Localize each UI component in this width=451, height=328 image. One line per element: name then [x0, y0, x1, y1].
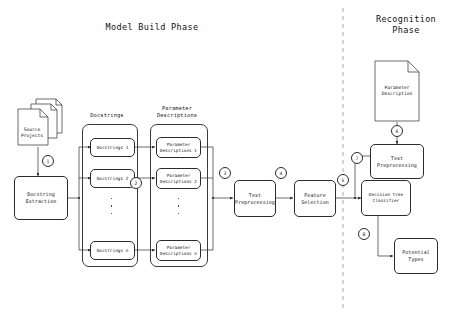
step-badge-5: 5	[337, 174, 349, 186]
feature-selection-node[interactable]: Feature Selection	[294, 180, 336, 217]
text-preprocessing-node[interactable]: Text Preprocessing	[234, 180, 276, 217]
recognition-phase-title: Recognition Phase	[362, 14, 450, 36]
step-badge-7: 7	[351, 152, 363, 164]
parameter-description-doc-label: Parameter Description	[374, 80, 420, 102]
docstrings-group-label: Docstrings	[76, 112, 138, 119]
docstrings-item-2[interactable]: Docstrings 2	[90, 169, 135, 188]
docstrings-item-n[interactable]: Docstrings n	[90, 241, 135, 260]
step-badge-6: 6	[391, 125, 403, 137]
step-badge-3: 3	[219, 167, 231, 179]
step-badge-4: 4	[275, 167, 287, 179]
junction-dot-dtc	[354, 197, 356, 199]
parameter-descriptions-group-label: Parameter Descriptions	[146, 105, 208, 118]
docstring-extraction-node[interactable]: Docstring Extraction	[14, 176, 68, 220]
parameter-descriptions-ellipsis	[178, 198, 179, 214]
docstrings-ellipsis	[111, 198, 112, 214]
step-badge-1: 1	[42, 155, 54, 167]
source-projects-label: Source Projects	[16, 122, 48, 144]
flowchart-diagram: Model Build Phase Recognition Phase Sour…	[0, 0, 451, 328]
potential-types-node[interactable]: Potential Types	[394, 238, 438, 274]
step-badge-2: 2	[130, 177, 142, 189]
step-badge-8: 8	[358, 228, 370, 240]
parameter-description-item-2[interactable]: Parameter Descriptions 2	[156, 168, 201, 189]
parameter-description-item-n[interactable]: Parameter Descriptions n	[156, 240, 201, 261]
recognition-text-preprocessing-node[interactable]: Text Preprocessing	[370, 144, 424, 179]
docstrings-item-1[interactable]: Docstrings 1	[90, 138, 135, 157]
decision-tree-classifier-node[interactable]: Decision Tree Classifier	[361, 180, 411, 216]
parameter-description-item-1[interactable]: Parameter Descriptions 1	[156, 137, 201, 158]
model-build-phase-title: Model Build Phase	[62, 22, 242, 33]
